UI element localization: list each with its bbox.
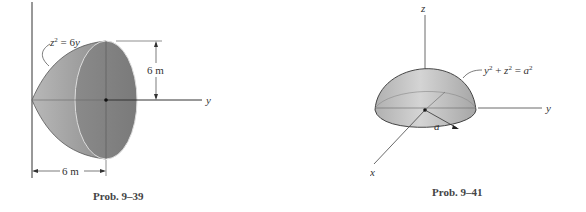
- figure-caption: Prob. 9–39: [93, 190, 144, 202]
- radius-arrow-icon: [452, 125, 459, 129]
- figure-prob-9-39: y 6 m 6 m z2 = 6y Prob. 9–39: [0, 0, 240, 212]
- figure-caption: Prob. 9–41: [432, 186, 483, 198]
- hemisphere-diagram: z y x a y2 + z2 = a2 Prob. 9–41: [370, 0, 586, 212]
- surface-equation-label: y2 + z2 = a2: [483, 64, 533, 76]
- curve-leader-line: [42, 44, 50, 66]
- height-dimension-label: 6 m: [147, 64, 164, 76]
- arrow-right-icon: [100, 169, 106, 173]
- radius-label: a: [434, 120, 440, 132]
- arrow-left-icon: [32, 169, 38, 173]
- x-axis-label: x: [370, 166, 375, 178]
- length-dimension-label: 6 m: [62, 165, 79, 177]
- y-axis-label: y: [205, 94, 211, 106]
- surface-leader-line: [463, 70, 482, 78]
- figure-prob-9-41: z y x a y2 + z2 = a2 Prob. 9–41: [370, 0, 586, 212]
- arrow-up-icon: [154, 41, 158, 47]
- origin-point: [104, 98, 108, 102]
- y-axis-label: y: [545, 102, 551, 114]
- z-axis-label: z: [420, 2, 426, 14]
- paraboloid-diagram: y 6 m 6 m z2 = 6y Prob. 9–39: [0, 0, 240, 212]
- arrow-down-icon: [154, 94, 158, 100]
- curve-equation-label: z2 = 6y: [49, 36, 80, 48]
